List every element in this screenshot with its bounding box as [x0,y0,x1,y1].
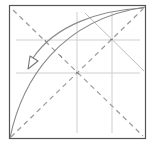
diagram-canvas [0,0,155,148]
origami-diagram: Origami fold step [0,0,155,148]
